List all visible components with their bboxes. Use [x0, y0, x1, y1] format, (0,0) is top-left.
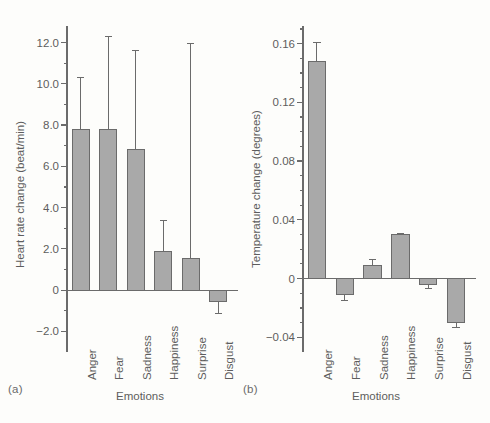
bar-anger [72, 129, 89, 290]
bar-happiness [392, 235, 409, 279]
x-tick-label-surprise: Surprise [196, 337, 208, 380]
y-tick-label: 0.16 [235, 38, 295, 50]
y-tick-label: 0.04 [235, 214, 295, 226]
x-tick-label-disgust: Disgust [223, 342, 235, 380]
x-tick-label-disgust: Disgust [461, 342, 473, 380]
x-tick-label-happiness: Happiness [168, 326, 180, 380]
y-tick-label: 8.0 [0, 119, 59, 131]
x-tick-label-sadness: Sadness [378, 335, 390, 380]
panel-label-b: (b) [243, 383, 258, 395]
x-tick-label-fear: Fear [113, 356, 125, 380]
x-tick-label-sadness: Sadness [141, 335, 153, 380]
bar-fear [336, 279, 353, 295]
x-tick-label-fear: Fear [350, 356, 362, 380]
y-tick-label: 2.0 [0, 243, 59, 255]
y-tick-label: 0.08 [235, 155, 295, 167]
bar-anger [308, 61, 325, 278]
y-tick-label: 10.0 [0, 78, 59, 90]
x-tick-label-happiness: Happiness [405, 326, 417, 380]
bar-sadness [127, 150, 144, 290]
x-tick-label-surprise: Surprise [433, 337, 445, 380]
bar-disgust [447, 279, 464, 323]
panel-b [297, 26, 476, 352]
panel-a [61, 26, 238, 352]
y-tick-label: −0.04 [235, 331, 295, 343]
x-axis-title-a: Emotions [116, 390, 164, 402]
figure-container: (a) (b) Heart rate change (beat/min) Tem… [0, 0, 490, 423]
y-tick-label: 0 [0, 284, 59, 296]
bar-surprise [420, 279, 437, 285]
y-axis-title-b: Temperature change (degrees) [250, 110, 262, 268]
bar-sadness [364, 265, 381, 278]
x-tick-label-anger: Anger [322, 349, 334, 380]
x-axis-title-b: Emotions [352, 390, 400, 402]
y-tick-label: 12.0 [0, 37, 59, 49]
y-tick-label: 0.12 [235, 96, 295, 108]
bar-fear [100, 129, 117, 290]
x-tick-label-anger: Anger [86, 349, 98, 380]
y-tick-label: −2.0 [0, 325, 59, 337]
bar-disgust [210, 290, 227, 301]
y-tick-label: 6.0 [0, 160, 59, 172]
y-tick-label: 0 [235, 273, 295, 285]
bar-surprise [182, 258, 199, 290]
panel-label-a: (a) [8, 383, 23, 395]
bar-happiness [155, 252, 172, 290]
y-tick-label: 4.0 [0, 202, 59, 214]
